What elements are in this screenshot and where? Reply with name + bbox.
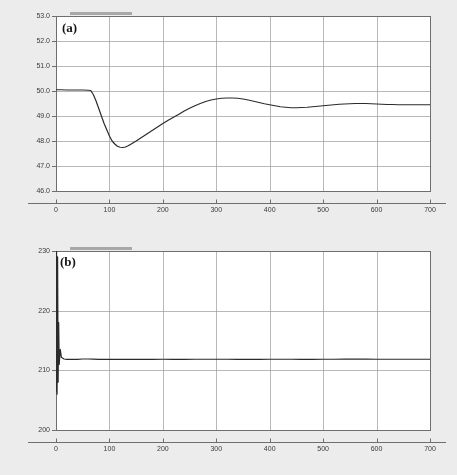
figure-container: (a) (b) — [0, 0, 457, 475]
panel-label-a: (a) — [62, 20, 77, 36]
chart-panel-a: (a) — [0, 0, 457, 232]
chart-canvas-b — [0, 235, 457, 475]
chart-panel-b: (b) — [0, 235, 457, 475]
panel-label-b: (b) — [60, 254, 76, 270]
